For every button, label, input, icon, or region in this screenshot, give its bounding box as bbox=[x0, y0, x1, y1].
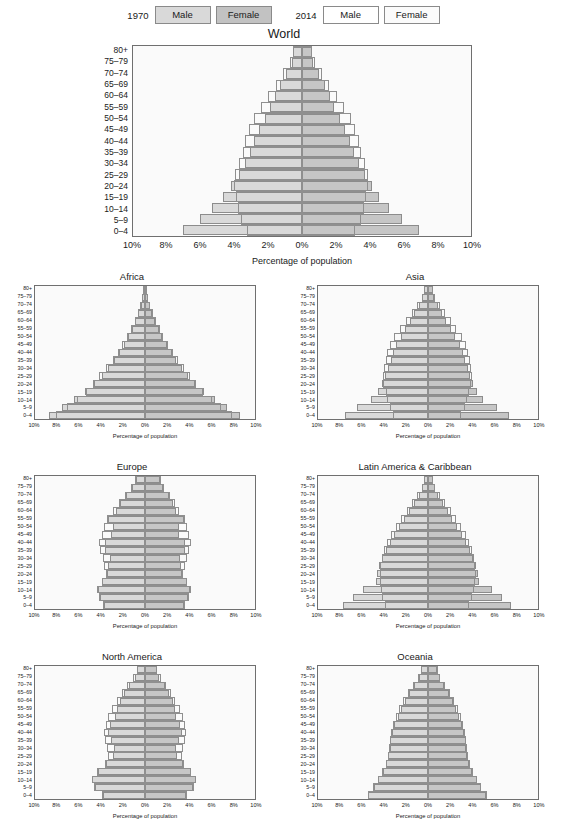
outline-2014-male bbox=[408, 689, 428, 697]
outline-2014-female bbox=[145, 507, 179, 515]
outline-2014-male bbox=[117, 697, 145, 705]
legend-group-1970: 1970 Male Female bbox=[127, 6, 271, 25]
outline-2014-male bbox=[389, 744, 428, 752]
outline-2014-female bbox=[428, 317, 451, 325]
outline-2014-male bbox=[86, 388, 145, 396]
x-axis-title: Percentage of population bbox=[317, 813, 539, 819]
outline-2014-male bbox=[384, 364, 428, 372]
age-label: 15–19 bbox=[104, 193, 128, 202]
outline-2014-female bbox=[145, 325, 160, 333]
outline-2014-male bbox=[382, 593, 428, 601]
outline-2014-male bbox=[102, 531, 145, 539]
outline-2014-female bbox=[428, 689, 450, 697]
age-label: 55–59 bbox=[18, 705, 32, 710]
outline-2014-female bbox=[428, 682, 445, 690]
outline-2014-female bbox=[428, 388, 469, 396]
age-label: 40–44 bbox=[18, 349, 32, 354]
outline-2014-male bbox=[399, 705, 428, 713]
x-tick-label: 8% bbox=[332, 612, 346, 618]
outline-2014-male bbox=[388, 752, 428, 760]
outline-2014-male bbox=[243, 147, 302, 158]
outline-2014-male bbox=[283, 68, 302, 79]
y-axis-age-labels: 80+75–7970–7465–6960–6455–5950–5445–4940… bbox=[291, 665, 317, 800]
outline-2014-male bbox=[391, 729, 428, 737]
outline-2014-male bbox=[77, 396, 145, 404]
age-label: 65–69 bbox=[104, 80, 128, 89]
age-label: 10–14 bbox=[301, 397, 315, 402]
legend: 1970 Male Female 2014 Male Female bbox=[0, 0, 567, 26]
age-label: 10–14 bbox=[301, 777, 315, 782]
outline-2014-female bbox=[428, 586, 474, 594]
x-axis-title: Percentage of population bbox=[34, 813, 256, 819]
age-label: 40–44 bbox=[301, 349, 315, 354]
legend-swatch-female-1970[interactable]: Female bbox=[216, 6, 272, 25]
outline-2014-female bbox=[145, 499, 175, 507]
outline-2014-male bbox=[393, 411, 428, 419]
x-tick-label: 8% bbox=[49, 422, 63, 428]
legend-swatch-female-2014[interactable]: Female bbox=[384, 6, 440, 25]
x-tick-label: 8% bbox=[510, 802, 524, 808]
outline-2014-male bbox=[99, 539, 145, 547]
x-tick-label: 0% bbox=[421, 612, 435, 618]
x-axis-title: Percentage of population bbox=[317, 433, 539, 439]
outline-2014-female bbox=[145, 317, 156, 325]
outline-2014-male bbox=[56, 411, 145, 419]
outline-2014-male bbox=[67, 403, 145, 411]
outline-2014-female bbox=[145, 697, 175, 705]
age-label: 10–14 bbox=[18, 587, 32, 592]
outline-2014-male bbox=[105, 760, 145, 768]
age-label: 0–4 bbox=[114, 227, 128, 236]
age-label: 45–49 bbox=[301, 531, 315, 536]
plot-wrap: 80+75–7970–7465–6960–6455–5950–5445–4940… bbox=[8, 285, 256, 420]
x-tick-label: 10% bbox=[532, 422, 546, 428]
legend-swatch-male-1970[interactable]: Male bbox=[155, 6, 211, 25]
age-label: 55–59 bbox=[18, 325, 32, 330]
age-label: 55–59 bbox=[301, 325, 315, 330]
age-label: 30–34 bbox=[18, 745, 32, 750]
outline-2014-female bbox=[428, 403, 465, 411]
outline-2014-female bbox=[428, 476, 433, 484]
age-label: 45–49 bbox=[18, 721, 32, 726]
x-tick-label: 2% bbox=[160, 422, 174, 428]
x-tick-label: 8% bbox=[332, 802, 346, 808]
outline-2014-male bbox=[383, 380, 428, 388]
outline-2014-female bbox=[145, 682, 166, 690]
outline-2014-male bbox=[112, 705, 145, 713]
outline-2014-female bbox=[302, 202, 364, 213]
legend-swatch-male-2014[interactable]: Male bbox=[323, 6, 379, 25]
plot-inner bbox=[318, 666, 538, 799]
x-tick-label: 4% bbox=[377, 612, 391, 618]
outline-2014-female bbox=[302, 225, 355, 236]
x-tick-label: 2% bbox=[160, 612, 174, 618]
x-tick-label: 0% bbox=[421, 422, 435, 428]
age-label: 80+ bbox=[23, 286, 32, 291]
age-label: 25–29 bbox=[104, 170, 128, 179]
outline-2014-male bbox=[113, 356, 145, 364]
outline-2014-male bbox=[383, 372, 428, 380]
panel-north-america: North America80+75–7970–7465–6960–6455–5… bbox=[8, 652, 256, 800]
outline-2014-male bbox=[100, 546, 145, 554]
outline-2014-female bbox=[145, 744, 183, 752]
x-tick-label: 8% bbox=[510, 612, 524, 618]
age-label: 30–34 bbox=[301, 555, 315, 560]
x-tick-label: 4% bbox=[182, 612, 196, 618]
outline-2014-female bbox=[302, 57, 315, 68]
outline-2014-male bbox=[97, 586, 145, 594]
age-label: 30–34 bbox=[301, 365, 315, 370]
age-label: 5–9 bbox=[23, 785, 32, 790]
panel-title: North America bbox=[8, 652, 256, 665]
outline-2014-female bbox=[145, 783, 194, 791]
panel-world: World80+75–7970–7465–6960–6455–5950–5445… bbox=[96, 28, 472, 237]
outline-2014-female bbox=[428, 484, 435, 492]
age-label: 55–59 bbox=[301, 705, 315, 710]
x-tick-label: 2% bbox=[399, 612, 413, 618]
outline-2014-male bbox=[127, 333, 145, 341]
outline-2014-male bbox=[135, 317, 145, 325]
outline-2014-female bbox=[428, 286, 433, 294]
outline-2014-female bbox=[145, 601, 185, 609]
y-axis-age-labels: 80+75–7970–7465–6960–6455–5950–5445–4940… bbox=[291, 475, 317, 610]
outline-2014-female bbox=[145, 562, 185, 570]
outline-2014-female bbox=[145, 286, 147, 294]
outline-2014-male bbox=[131, 325, 145, 333]
x-tick-label: 10% bbox=[27, 612, 41, 618]
